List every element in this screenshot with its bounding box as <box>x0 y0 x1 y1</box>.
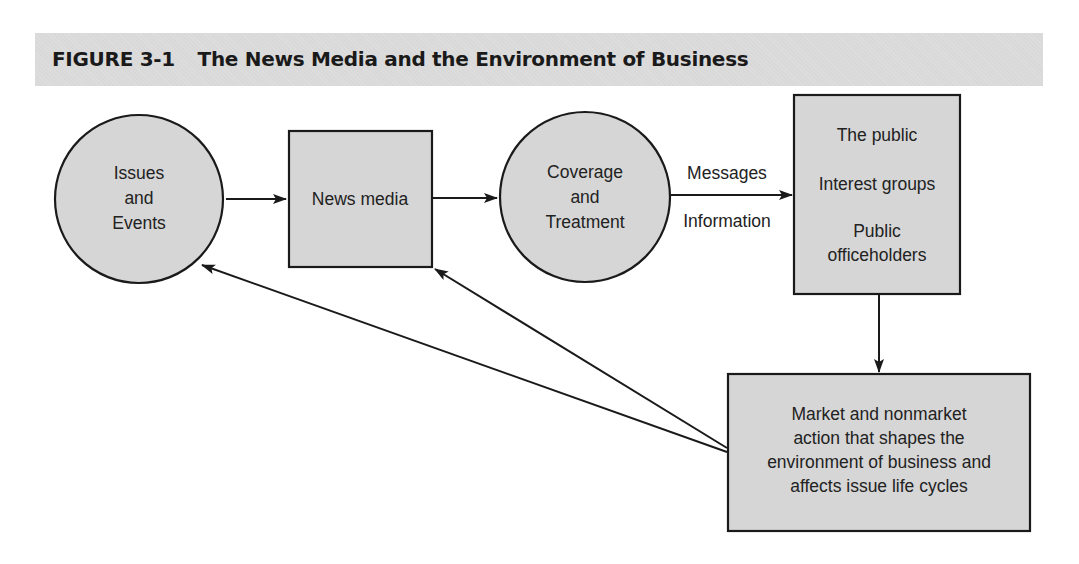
node-action-line-2: action that shapes the <box>793 428 964 448</box>
node-action: Market and nonmarket action that shapes … <box>728 374 1030 531</box>
node-action-line-4: affects issue life cycles <box>790 476 968 496</box>
node-coverage-line-1: Coverage <box>547 162 623 182</box>
node-audiences-interest-groups: Interest groups <box>819 174 936 194</box>
node-issues-events-line-1: Issues <box>114 163 165 183</box>
node-coverage-line-2: and <box>570 187 599 207</box>
edge-label-messages: Messages <box>687 163 767 183</box>
node-coverage-line-3: Treatment <box>545 212 624 232</box>
flow-diagram: Issues and Events News media Coverage an… <box>0 0 1079 564</box>
node-news-media: News media <box>289 131 432 267</box>
node-issues-events-line-3: Events <box>112 213 166 233</box>
arrow-action-to-news-media <box>435 269 727 448</box>
node-issues-events-line-2: and <box>124 188 153 208</box>
node-audiences: The public Interest groups Public office… <box>794 95 960 294</box>
node-action-line-1: Market and nonmarket <box>791 404 966 424</box>
node-news-media-label: News media <box>312 189 409 209</box>
arrow-action-to-issues <box>202 265 727 452</box>
node-coverage-treatment: Coverage and Treatment <box>500 112 670 282</box>
edge-label-information: Information <box>683 211 771 231</box>
node-audiences-public-line: Public <box>853 221 901 241</box>
node-audiences-public: The public <box>837 125 918 145</box>
node-audiences-officeholders: officeholders <box>828 245 927 265</box>
node-action-line-3: environment of business and <box>767 452 991 472</box>
node-issues-events: Issues and Events <box>55 115 223 283</box>
